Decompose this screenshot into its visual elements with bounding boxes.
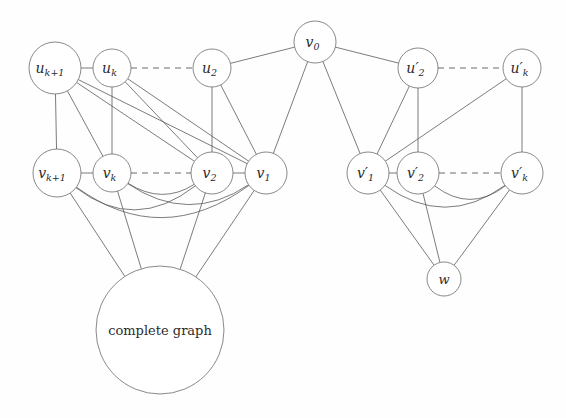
edge-v0-u2p (335, 47, 398, 63)
edge-v1p-w (380, 190, 434, 265)
edge-v0-v1 (273, 62, 307, 154)
edge-ukplus1-vk (67, 91, 103, 156)
edge-uk-v2 (125, 82, 197, 158)
complete-graph-label: complete graph (108, 323, 212, 338)
arc-edge-layer (76, 183, 505, 217)
edge-vkplus1-complete-graph (70, 193, 125, 276)
arc-vk-v1 (128, 184, 249, 205)
complete-graph-blob[interactable]: complete graph (96, 266, 224, 394)
node-u_kp[interactable]: u′k (503, 49, 541, 87)
node-v_1[interactable]: v1 (245, 152, 287, 194)
node-u_kplus1[interactable]: uk+1 (29, 42, 81, 94)
node-u_k[interactable]: uk (93, 49, 131, 87)
edge-vk-complete-graph (118, 191, 142, 269)
node-w[interactable]: w (427, 262, 461, 296)
node-v_1p[interactable]: v′1 (347, 152, 389, 194)
arc-vkplus1-v2 (76, 186, 195, 210)
arc-v2p-vkp (435, 186, 506, 200)
node-v_kplus1[interactable]: vk+1 (33, 149, 81, 197)
edge-vkp-w (454, 190, 509, 265)
edge-ukplus1-vkplus1 (55, 94, 56, 149)
node-u_2p[interactable]: u′2 (398, 48, 438, 88)
node-u_2[interactable]: u2 (193, 49, 231, 87)
blob-edge-layer (70, 190, 254, 277)
node-v_0[interactable]: v0 (294, 21, 336, 63)
edge-ukplus1-v2 (77, 82, 195, 161)
node-v_kp[interactable]: v′k (501, 152, 543, 194)
edge-v0-v1p (323, 61, 360, 153)
edge-uk-v1 (128, 79, 249, 161)
node-label-w: w (438, 272, 449, 287)
node-v_k[interactable]: vk (93, 154, 131, 192)
node-v_2p[interactable]: v′2 (397, 152, 439, 194)
edge-ukp-v1p (385, 79, 506, 161)
edge-u2-v0 (230, 47, 294, 63)
w-edge-layer (380, 190, 509, 265)
edge-u2-v1 (221, 85, 257, 154)
arc-vk-v2 (128, 183, 194, 194)
node-layer: uk+1uku2v0u′2u′kvk+1vkv2v1v′1v′2v′kw (29, 21, 543, 296)
node-v_2[interactable]: v2 (191, 152, 233, 194)
dashed-edge-layer (131, 68, 503, 173)
graph-canvas: complete graph uk+1uku2v0u′2u′kvk+1vkv2v… (0, 0, 566, 418)
edge-u2p-v1p (377, 86, 409, 154)
graph-figure: complete graph uk+1uku2v0u′2u′kvk+1vkv2v… (0, 0, 566, 418)
edge-v2p-w (423, 193, 440, 262)
